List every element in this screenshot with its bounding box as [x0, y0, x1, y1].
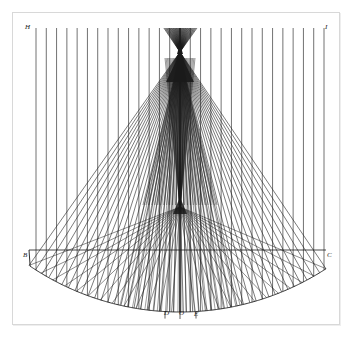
label-baseline-center: O	[179, 310, 184, 317]
label-baseline-right: E	[194, 311, 198, 318]
figure-root: A H I B C D O E Perspective construction…	[0, 0, 353, 341]
label-baseline-left: D	[164, 310, 169, 317]
node-rays-group	[29, 44, 326, 312]
label-right-vertex: C	[327, 252, 332, 259]
label-top-left: H	[25, 24, 30, 31]
label-left-vertex: B	[23, 252, 27, 259]
geometric-diagram	[0, 0, 353, 341]
label-top-right: I	[325, 24, 327, 31]
label-apex: A	[177, 40, 181, 47]
